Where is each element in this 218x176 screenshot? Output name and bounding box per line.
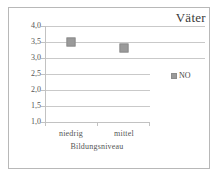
y-axis-tick-labels: 4,0 3,5 3,0 2,5 2,0 1,5 1,0 (12, 26, 41, 122)
x-tick-start (45, 122, 46, 126)
x-tick-label-niedrig: niedrig (59, 129, 83, 138)
y-tick-1-5 (41, 106, 45, 107)
data-point-mittel[interactable] (120, 44, 129, 53)
x-tick-label-mittel: mittel (114, 129, 134, 138)
no-series-swatch-icon (171, 73, 177, 79)
y-tick-3-5 (41, 42, 45, 43)
y-tick-2-0 (41, 90, 45, 91)
chart-title: Väter (176, 10, 206, 26)
y-tick-3-0 (41, 58, 45, 59)
data-point-niedrig[interactable] (67, 38, 76, 47)
x-tick-end (149, 122, 150, 126)
plot-area (45, 26, 150, 122)
x-axis-title: Bildungsniveau (70, 142, 123, 151)
y-tick-label-3-0: 3,0 (15, 54, 41, 62)
y-tick-label-3-5: 3,5 (15, 38, 41, 46)
y-tick-label-1-5: 1,5 (15, 102, 41, 110)
legend-label-no: NO (179, 72, 191, 80)
y-tick-2-5 (41, 74, 45, 75)
y-tick-label-2-5: 2,5 (15, 70, 41, 78)
y-tick-label-2-0: 2,0 (15, 86, 41, 94)
y-tick-label-1-0: 1,0 (15, 118, 41, 126)
chart-figure: Väter 4,0 3,5 3,0 2,5 2,0 1,5 1,0 Arbeit… (0, 0, 218, 176)
y-tick-label-4-0: 4,0 (15, 22, 41, 30)
x-tick-middle (97, 122, 98, 126)
legend: NO (171, 72, 191, 80)
y-tick-4-0 (41, 26, 45, 27)
